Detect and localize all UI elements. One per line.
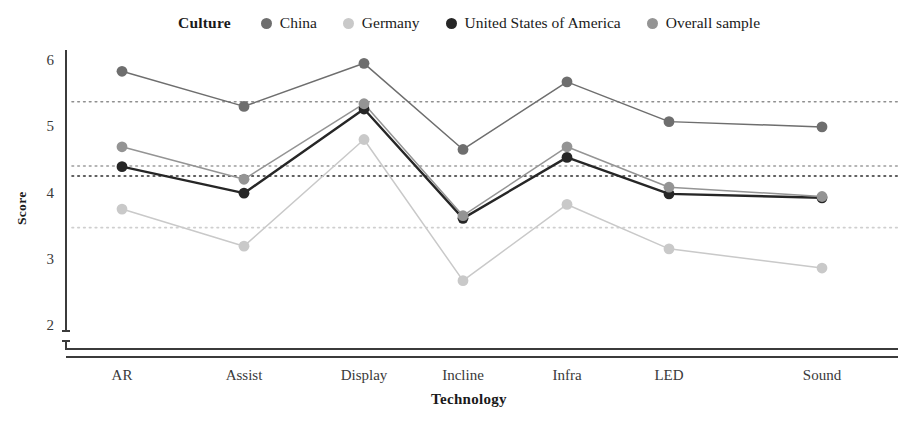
y-axis-tick-label: 2 — [20, 317, 54, 334]
data-point-marker[interactable] — [664, 182, 675, 193]
axis-break-icon — [62, 320, 898, 349]
y-axis-tick-label: 4 — [20, 185, 54, 202]
data-point-marker[interactable] — [458, 210, 469, 221]
data-point-marker[interactable] — [562, 141, 573, 152]
plot-area — [0, 0, 918, 424]
data-point-marker[interactable] — [239, 241, 250, 252]
data-point-marker[interactable] — [817, 191, 828, 202]
data-point-marker[interactable] — [359, 58, 370, 69]
data-point-marker[interactable] — [117, 161, 128, 172]
x-axis-tick-label: Sound — [767, 367, 877, 384]
data-point-marker[interactable] — [458, 144, 469, 155]
data-point-marker[interactable] — [117, 66, 128, 77]
data-point-marker[interactable] — [562, 152, 573, 163]
series-line — [122, 63, 822, 149]
data-point-marker[interactable] — [239, 101, 250, 112]
y-axis-tick-label: 6 — [20, 52, 54, 69]
data-point-marker[interactable] — [359, 134, 370, 145]
data-point-marker[interactable] — [562, 199, 573, 210]
x-axis-tick-label: Display — [309, 367, 419, 384]
data-point-marker[interactable] — [664, 116, 675, 127]
data-point-marker[interactable] — [359, 98, 370, 109]
data-point-marker[interactable] — [664, 243, 675, 254]
data-point-marker[interactable] — [562, 76, 573, 87]
score-by-technology-chart: Culture China Germany United States of A… — [0, 0, 918, 424]
data-point-marker[interactable] — [117, 204, 128, 215]
data-point-marker[interactable] — [817, 263, 828, 274]
y-axis-tick-label: 3 — [20, 251, 54, 268]
x-axis-tick-label: AR — [67, 367, 177, 384]
data-point-marker[interactable] — [239, 174, 250, 185]
data-point-marker[interactable] — [117, 141, 128, 152]
series-line — [122, 109, 822, 218]
data-point-marker[interactable] — [239, 188, 250, 199]
data-point-marker[interactable] — [458, 275, 469, 286]
y-axis-tick-label: 5 — [20, 118, 54, 135]
x-axis-tick-label: Incline — [408, 367, 518, 384]
x-axis-tick-label: Assist — [189, 367, 299, 384]
x-axis-tick-label: LED — [614, 367, 724, 384]
data-point-marker[interactable] — [817, 122, 828, 133]
x-axis-tick-label: Infra — [512, 367, 622, 384]
series-line — [122, 104, 822, 216]
